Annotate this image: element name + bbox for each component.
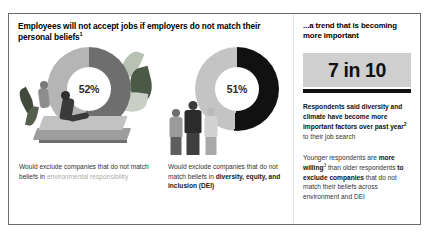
chart-environmental: 52%	[17, 44, 167, 159]
right-panel-title: ...a trend that is becoming more importa…	[303, 21, 412, 41]
charts-row: 52% 51%	[9, 44, 295, 159]
headline-footnote: 1	[80, 31, 83, 37]
stat-description-bold: Respondents said diversity and climate h…	[303, 103, 404, 129]
stat-callout-box: 7 in 10	[303, 53, 411, 87]
laptop-base-edge	[39, 140, 127, 143]
caption-environmental: Would exclude companies that do not matc…	[19, 162, 161, 181]
person-head	[172, 109, 180, 117]
page-title: Employees will not accept jobs if employ…	[18, 21, 283, 42]
stat-divider-rule	[303, 89, 411, 93]
headline-text: Employees will not accept jobs if employ…	[18, 21, 260, 42]
person-figure	[168, 109, 184, 155]
stat-value: 7 in 10	[328, 59, 386, 82]
left-panel: Employees will not accept jobs if employ…	[9, 14, 294, 224]
caption-dei: Would exclude companies that do not matc…	[168, 162, 296, 191]
stat-description-regular: to their job search	[303, 133, 355, 140]
person-seated-head	[61, 91, 70, 100]
person-legs	[187, 133, 200, 155]
secondary-part-2: than older respondents	[326, 164, 397, 171]
secondary-description: Younger respondents are more willing3 th…	[303, 153, 413, 202]
donut-value-label: 51%	[227, 83, 247, 95]
person-head	[40, 81, 48, 89]
person-torso	[170, 117, 183, 137]
person-legs	[171, 137, 182, 155]
chart-dei: 51%	[167, 44, 295, 159]
donut-value-label: 52%	[79, 83, 99, 95]
person-head	[207, 108, 215, 116]
person-figure	[203, 108, 219, 155]
stat-description-footnote: 2	[404, 122, 407, 127]
caption-highlight: environmental responsibility	[47, 173, 128, 180]
person-head	[189, 101, 198, 110]
person-torso	[185, 110, 202, 133]
caption-line-1: Would exclude companies that	[19, 163, 109, 170]
person-figure	[183, 101, 203, 155]
infographic-container: Employees will not accept jobs if employ…	[8, 13, 421, 225]
caption-line-1: Would exclude companies that do	[168, 163, 267, 170]
person-legs	[206, 137, 217, 155]
right-panel: ...a trend that is becoming more importa…	[294, 14, 420, 224]
person-torso	[205, 116, 218, 137]
people-illustration	[167, 99, 223, 157]
stat-description: Respondents said diversity and climate h…	[303, 102, 413, 141]
secondary-part-1: Younger respondents are	[303, 154, 379, 161]
